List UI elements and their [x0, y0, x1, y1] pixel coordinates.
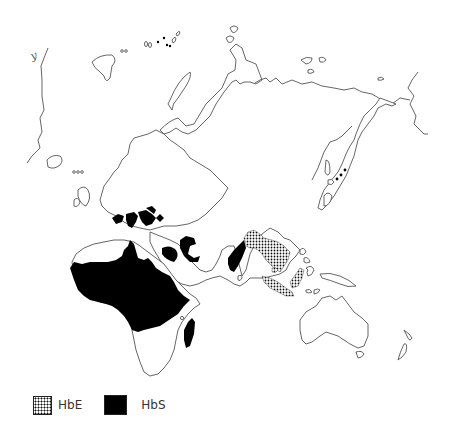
- maritime-southeast-asia: [300, 248, 356, 294]
- australia: [300, 296, 368, 348]
- hbs-madagascar: [184, 318, 195, 348]
- iceland: [47, 156, 62, 169]
- british-isles: [73, 171, 90, 207]
- legend-item-hbe: HbE: [33, 396, 82, 415]
- legend-label-hbs: HbS: [141, 398, 165, 412]
- world-map: y: [0, 0, 451, 429]
- tasmania: [356, 351, 364, 358]
- legend: HbE HbS: [33, 395, 166, 415]
- bering-coastline: [408, 72, 428, 134]
- legend-label-hbe: HbE: [58, 398, 82, 412]
- new-zealand: [398, 330, 412, 360]
- hbe-swatch-icon: [33, 396, 52, 415]
- arctic-islands: [92, 31, 191, 110]
- projection-marker: y: [28, 48, 40, 63]
- comoros: [180, 316, 183, 319]
- hbs-swatch-icon: [104, 395, 127, 415]
- legend-item-hbs: HbS: [104, 395, 165, 415]
- western-coastline: [27, 48, 48, 163]
- hbs-india: [228, 240, 246, 272]
